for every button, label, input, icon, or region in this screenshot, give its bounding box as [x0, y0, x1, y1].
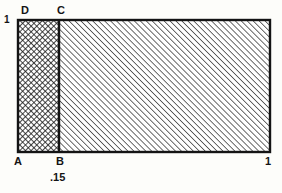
vertex-label-c: C — [57, 5, 65, 16]
figure-container: 1 D C A B 1 .15 — [0, 0, 282, 193]
left-region-fill — [18, 20, 59, 152]
vertex-label-a: A — [14, 156, 22, 167]
vertex-label-b: B — [56, 156, 64, 167]
vertex-label-d: D — [21, 5, 29, 16]
axis-label-bottom-right-one: 1 — [265, 156, 271, 167]
segment-width-label: .15 — [50, 172, 65, 183]
geometry-diagram — [0, 0, 282, 193]
right-region-fill — [59, 20, 270, 152]
axis-label-top-left-one: 1 — [4, 15, 10, 25]
